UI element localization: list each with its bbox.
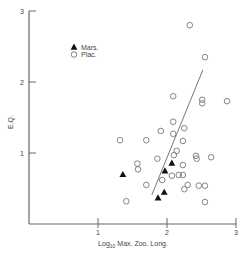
triangle-marker-icon — [119, 171, 126, 177]
circle-marker-icon — [202, 199, 208, 205]
circle-marker-icon — [135, 161, 141, 167]
circle-marker-icon — [144, 182, 150, 188]
circle-marker-icon — [117, 137, 123, 143]
legend-triangle-icon — [71, 44, 78, 50]
circle-marker-icon — [180, 172, 186, 178]
plot-area: 123123 Mars.Plac. Log10 Max. Zoo. Long.E… — [0, 0, 252, 256]
circle-marker-icon — [202, 183, 208, 189]
circle-marker-icon — [170, 93, 176, 99]
scatter-chart: 123123 Mars.Plac. Log10 Max. Zoo. Long.E… — [0, 0, 252, 256]
regression-line — [152, 70, 203, 195]
legend-circle-icon — [71, 52, 77, 58]
circle-marker-icon — [208, 154, 214, 160]
circle-marker-icon — [180, 138, 186, 144]
y-axis-label: E.Q. — [7, 115, 15, 129]
fit-line — [152, 70, 203, 195]
circle-marker-icon — [171, 152, 177, 158]
y-tick-label: 3 — [20, 8, 24, 15]
circle-marker-icon — [202, 54, 208, 60]
axes — [29, 11, 236, 224]
circle-marker-icon — [144, 137, 150, 143]
series-mars — [119, 160, 175, 201]
circle-marker-icon — [155, 156, 161, 162]
legend: Mars.Plac. — [71, 44, 99, 59]
axis-labels: Log10 Max. Zoo. Long.E.Q. — [7, 115, 168, 249]
y-tick-label: 2 — [20, 79, 24, 86]
legend-label: Mars. — [81, 44, 99, 51]
circle-marker-icon — [187, 22, 193, 28]
x-tick-label: 1 — [96, 229, 100, 236]
series-plac — [117, 22, 230, 204]
x-tick-label: 3 — [234, 229, 238, 236]
triangle-marker-icon — [168, 160, 175, 166]
y-tick-label: 1 — [20, 150, 24, 157]
circle-marker-icon — [199, 101, 205, 107]
x-tick-label: 2 — [165, 229, 169, 236]
legend-label: Plac. — [81, 51, 97, 58]
circle-marker-icon — [181, 125, 187, 131]
triangle-marker-icon — [155, 194, 162, 200]
data-points — [117, 22, 230, 204]
triangle-marker-icon — [161, 189, 168, 195]
circle-marker-icon — [180, 162, 186, 168]
circle-marker-icon — [158, 128, 164, 134]
circle-marker-icon — [123, 198, 129, 204]
circle-marker-icon — [135, 167, 141, 173]
x-axis-label: Log10 Max. Zoo. Long. — [98, 240, 168, 249]
circle-marker-icon — [170, 131, 176, 137]
circle-marker-icon — [169, 173, 175, 179]
circle-marker-icon — [181, 186, 187, 192]
circle-marker-icon — [224, 98, 230, 104]
circle-marker-icon — [196, 183, 202, 189]
circle-marker-icon — [170, 119, 176, 125]
circle-marker-icon — [159, 177, 165, 183]
